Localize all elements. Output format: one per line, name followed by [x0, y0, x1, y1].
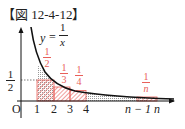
y-label-half: 1 2: [6, 68, 15, 93]
figure-12-4-12: 【図 12-4-12】 y: [0, 0, 185, 129]
x-tick-2: 2: [51, 102, 57, 117]
x-tick-n-minus-1: n − 1: [125, 102, 151, 117]
label-1-4: 1 4: [74, 64, 84, 87]
x-tick-4: 4: [83, 102, 89, 117]
x-tick-n: n: [154, 102, 160, 117]
y-axis-arrow: [19, 27, 24, 33]
label-1-3: 1 3: [59, 62, 69, 85]
x-tick-3: 3: [67, 102, 73, 117]
label-1-2: 1 2: [42, 46, 52, 69]
origin-label: O: [12, 102, 21, 117]
label-1-n: 1 n: [141, 71, 151, 94]
x-tick-1: 1: [34, 102, 40, 117]
